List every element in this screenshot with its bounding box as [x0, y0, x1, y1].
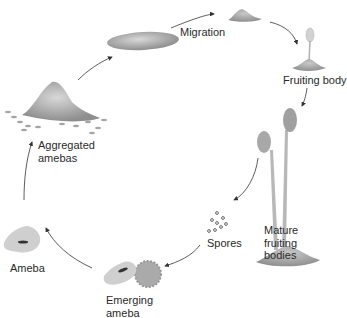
fruiting-body-illustration: [292, 28, 326, 71]
aggregated-amebas-illustration: [5, 82, 107, 134]
label-spores: Spores: [207, 237, 242, 250]
label-ameba: Ameba: [10, 262, 45, 275]
slug-illustration: [107, 30, 180, 52]
ameba-illustration: [4, 226, 41, 253]
label-migration: Migration: [180, 26, 225, 39]
label-mature-fruiting-bodies: Mature fruiting bodies: [264, 224, 298, 262]
spores-illustration: [208, 212, 228, 233]
label-emerging-ameba: Emerging ameba: [106, 294, 153, 318]
migration-mound-illustration: [228, 9, 262, 22]
label-fruiting-body: Fruiting body: [283, 74, 347, 87]
emerging-ameba-illustration: [104, 261, 161, 287]
label-aggregated-amebas: Aggregated amebas: [38, 139, 95, 164]
